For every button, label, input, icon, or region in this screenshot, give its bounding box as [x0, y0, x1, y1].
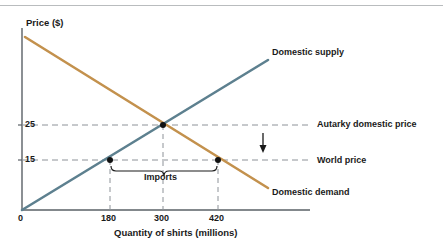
demand-world-price-marker — [215, 157, 221, 163]
supply-demand-chart-figure: Price ($) Quantity of shirts (millions) … — [0, 0, 443, 244]
x-axis-title: Quantity of shirts (millions) — [114, 228, 238, 238]
x-tick-label-0: 0 — [18, 214, 23, 223]
domestic-supply-label: Domestic supply — [272, 48, 344, 57]
world-price-label: World price — [317, 156, 366, 165]
autarky-equilibrium-marker — [160, 122, 166, 128]
y-axis-title: Price ($) — [26, 18, 64, 28]
x-tick-label-180: 180 — [101, 214, 116, 223]
domestic-supply-curve — [22, 60, 268, 210]
supply-world-price-marker — [107, 157, 113, 163]
autarky-domestic-price-label: Autarky domestic price — [317, 120, 417, 129]
x-tick-label-420: 420 — [209, 214, 224, 223]
y-tick-label-15: 15 — [25, 155, 35, 164]
domestic-demand-curve — [25, 37, 268, 188]
x-tick-label-300: 300 — [154, 214, 169, 223]
y-tick-label-25: 25 — [25, 120, 35, 129]
domestic-demand-label: Domestic demand — [272, 188, 350, 197]
imports-label: Imports — [144, 173, 177, 182]
price-drop-arrow-head — [260, 145, 267, 153]
